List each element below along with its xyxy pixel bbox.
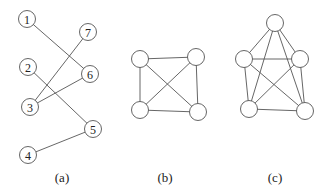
node-label: 4: [25, 149, 31, 163]
node-label: 6: [87, 68, 93, 82]
node: [132, 51, 149, 68]
node-label: 7: [85, 26, 91, 40]
node: [188, 49, 205, 66]
node: [132, 102, 149, 119]
node: [241, 101, 258, 118]
figure-caption: (c): [268, 170, 282, 185]
graph-diagrams: 1726354(a)(b)(c): [0, 0, 326, 190]
node: [292, 51, 309, 68]
edge: [30, 74, 90, 107]
node-label: 3: [27, 101, 33, 115]
node: [267, 15, 284, 32]
edge: [140, 59, 198, 112]
node-label: 2: [25, 61, 31, 75]
node-label: 5: [90, 123, 96, 137]
edge: [28, 129, 93, 155]
node: [190, 104, 207, 121]
figure-a: 1726354(a): [19, 11, 102, 186]
figure-b: (b): [132, 49, 207, 186]
figure-caption: (b): [157, 170, 172, 185]
edge: [30, 32, 88, 107]
node: [236, 51, 253, 68]
node: [297, 103, 314, 120]
figure-c: (c): [236, 15, 314, 186]
node-label: 1: [24, 13, 30, 27]
figure-caption: (a): [55, 170, 69, 185]
